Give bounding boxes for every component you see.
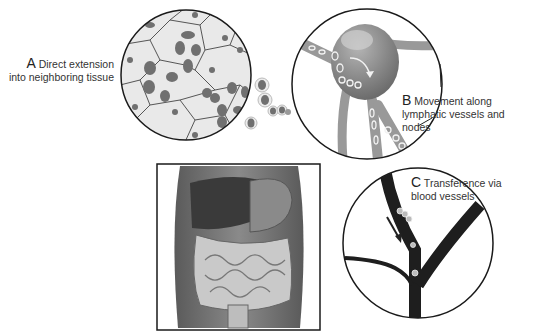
label-b-line2: lymphatic vessels and nodes [402,108,505,133]
panel-b-lymph-circle [290,8,445,160]
label-c-blood-transference: C Transference via blood vessels [411,176,531,203]
label-c-line1: Transference via [424,177,502,189]
label-b-lymphatic-movement: B Movement along lymphatic vessels and n… [402,94,536,134]
label-c-letter: C [411,174,421,190]
label-a-direct-extension: A Direct extension into neighboring tiss… [4,57,114,84]
label-b-letter: B [402,92,411,108]
label-b-line1: Movement along [414,95,492,107]
diagram-illustration [0,0,536,334]
escaping-tumor-cells [245,78,291,129]
panel-a-tissue-circle [120,8,291,142]
label-c-line2: blood vessels [411,190,475,202]
label-a-letter: A [26,55,35,71]
abdomen-illustration [157,164,320,330]
label-a-line1: Direct extension [39,58,114,70]
label-a-line2: into neighboring tissue [9,71,114,83]
